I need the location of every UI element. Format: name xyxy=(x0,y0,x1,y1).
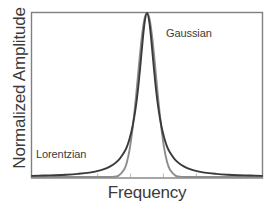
annotation-gaussian: Gaussian xyxy=(166,27,212,39)
chart-figure: Normalized Amplitude Frequency Gaussian … xyxy=(0,0,275,215)
annotation-lorentzian: Lorentzian xyxy=(36,148,86,160)
x-axis-label: Frequency xyxy=(31,183,263,203)
y-axis-label: Normalized Amplitude xyxy=(10,5,30,171)
